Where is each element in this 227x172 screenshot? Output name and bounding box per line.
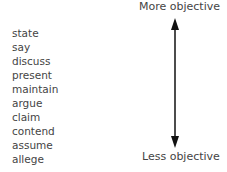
reporting-verb-list: state say discuss present maintain argue…	[12, 26, 58, 166]
list-item: contend	[12, 124, 58, 138]
list-item: assume	[12, 138, 58, 152]
list-item: maintain	[12, 82, 58, 96]
list-item: discuss	[12, 54, 58, 68]
list-item: allege	[12, 152, 58, 166]
more-objective-label: More objective	[139, 0, 220, 14]
less-objective-label: Less objective	[142, 150, 220, 164]
list-item: argue	[12, 96, 58, 110]
list-item: present	[12, 68, 58, 82]
list-item: say	[12, 40, 58, 54]
list-item: claim	[12, 110, 58, 124]
list-item: state	[12, 26, 58, 40]
double-headed-arrow-icon	[167, 18, 183, 148]
